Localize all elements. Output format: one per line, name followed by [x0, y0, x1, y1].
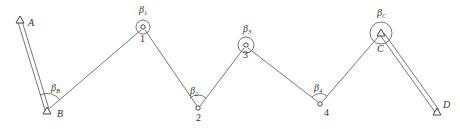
- label-4: 4: [324, 107, 329, 118]
- label-D: D: [442, 99, 451, 110]
- label-3: 3: [243, 49, 248, 60]
- angle-label-1: β1: [138, 4, 147, 16]
- side-B-1: [50, 30, 141, 108]
- point-marker-1: [141, 25, 145, 29]
- known-side-CD: [380, 33, 439, 112]
- point-marker-2: [196, 106, 200, 110]
- side-3-4: [248, 48, 318, 102]
- triangle-icon-A: [16, 16, 24, 23]
- known-side-AB: [18, 21, 49, 110]
- point-marker-3: [244, 43, 248, 47]
- angle-arc-4: [312, 94, 327, 97]
- side-2-3: [200, 48, 244, 106]
- angle-arc-B: [40, 93, 60, 100]
- angle-label-4: β4: [313, 82, 323, 94]
- point-marker-4: [318, 102, 322, 106]
- angle-label-2: β2: [189, 85, 199, 97]
- connecting-traverse-diagram: A B C D 1 2 3 4 βB β1 β2 β3 β4 βC: [0, 0, 460, 129]
- angle-label-B: βB: [50, 82, 60, 94]
- angle-label-3: β3: [242, 23, 252, 35]
- triangle-icon-C: [377, 29, 385, 36]
- label-A: A: [27, 17, 35, 28]
- label-B: B: [57, 108, 63, 119]
- label-C: C: [377, 43, 384, 54]
- side-4-C: [322, 36, 379, 102]
- angle-label-C: βC: [376, 7, 387, 19]
- label-2: 2: [196, 112, 201, 123]
- label-1: 1: [140, 33, 145, 44]
